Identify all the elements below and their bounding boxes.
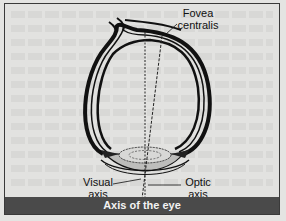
fovea-centralis-label: Fovea centralis <box>175 7 221 31</box>
visual-axis-leader <box>113 179 141 184</box>
figure-frame: Fovea centralis Visual axis Optic axis A… <box>4 3 280 215</box>
eye-axis-diagram <box>5 4 280 215</box>
figure-caption: Axis of the eye <box>5 197 279 214</box>
eyeball-wall <box>85 25 210 154</box>
